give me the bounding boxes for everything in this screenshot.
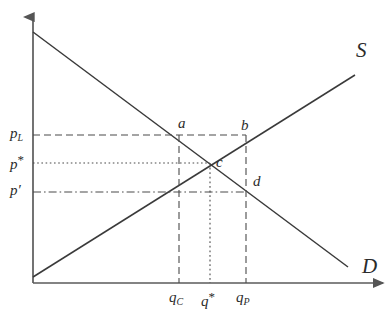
demand-curve-label: D xyxy=(362,256,377,277)
supply-curve-label: S xyxy=(356,40,367,61)
y-axis-label-pprime-main: p xyxy=(10,182,18,198)
x-axis-label-qP-main: q xyxy=(236,289,244,305)
x-axis-label-qstar-main: q xyxy=(201,293,209,309)
x-axis-label-qP-sub: P xyxy=(244,296,250,307)
x-axis-label-qP: qP xyxy=(236,290,250,307)
x-axis-label-qC-main: q xyxy=(169,289,177,305)
y-axis-label-pstar: p* xyxy=(10,153,24,172)
point-label-a: a xyxy=(178,116,186,131)
supply-demand-diagram: S D a b c d pL p* p′ qC q* qP xyxy=(0,0,391,322)
y-axis-label-pstar-main: p xyxy=(10,156,18,172)
y-axis-label-pstar-star: * xyxy=(18,152,25,167)
y-axis-label-pprime: p′ xyxy=(10,183,21,198)
x-axis-label-qC: qC xyxy=(169,290,183,307)
y-axis-label-pL: pL xyxy=(10,126,23,143)
point-label-c: c xyxy=(216,155,223,170)
y-axis-label-pL-sub: L xyxy=(18,132,24,143)
y-axis-label-pL-main: p xyxy=(10,125,18,141)
x-axis-label-qC-sub: C xyxy=(177,296,184,307)
supply-curve xyxy=(33,75,355,277)
point-label-d: d xyxy=(253,174,261,189)
y-axis-label-pprime-prime: ′ xyxy=(18,182,21,198)
diagram-canvas xyxy=(0,0,391,322)
demand-curve xyxy=(33,32,348,267)
point-label-b: b xyxy=(241,118,249,133)
x-axis-label-qstar: q* xyxy=(201,290,215,309)
x-axis-label-qstar-star: * xyxy=(209,289,216,304)
